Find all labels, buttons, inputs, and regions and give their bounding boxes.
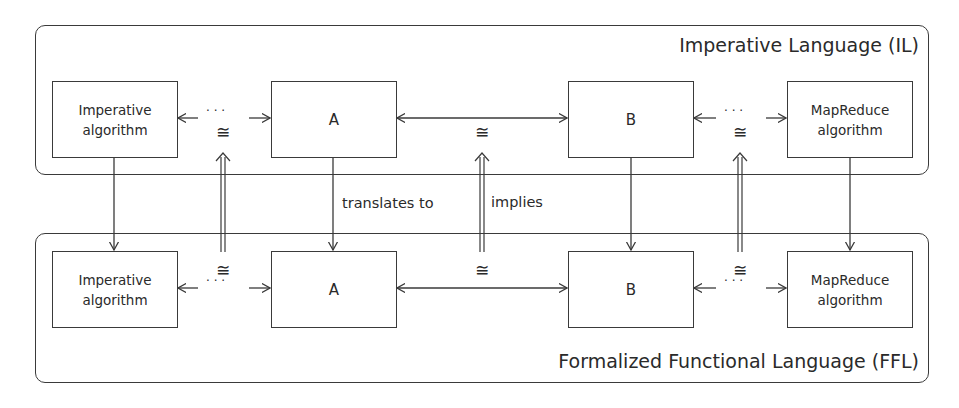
ffl-mapreduce-algorithm-box: MapReduce algorithm [787, 251, 913, 328]
congruence-symbol-top-left: ≅ [213, 124, 233, 141]
ellipsis-top-left: · · · [206, 104, 225, 118]
congruence-symbol-top-right: ≅ [730, 124, 750, 141]
il-a-box: A [271, 81, 397, 158]
ffl-a-box: A [271, 251, 397, 328]
congruence-symbol-bottom-left: ≅ [213, 262, 233, 279]
congruence-symbol-bottom-right: ≅ [730, 262, 750, 279]
il-mapreduce-algorithm-box: MapReduce algorithm [787, 81, 913, 158]
implies-label: implies [491, 194, 543, 210]
ellipsis-top-right: · · · [724, 104, 743, 118]
il-imperative-algorithm-box: Imperative algorithm [52, 81, 178, 158]
ffl-b-box: B [568, 251, 694, 328]
translates-to-label: translates to [342, 195, 434, 211]
congruence-symbol-bottom-middle: ≅ [472, 262, 492, 279]
il-b-box: B [568, 81, 694, 158]
diagram-arrows [0, 0, 959, 408]
ffl-imperative-algorithm-box: Imperative algorithm [52, 251, 178, 328]
congruence-symbol-top-middle: ≅ [472, 124, 492, 141]
